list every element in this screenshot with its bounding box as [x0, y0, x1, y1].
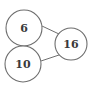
whole-label: 16	[63, 38, 79, 51]
number-bond-diagram: 6 10 16	[0, 0, 100, 88]
connector-line-bottom	[41, 55, 59, 61]
part-node-top: 6	[6, 10, 42, 46]
part-label-top: 6	[20, 22, 28, 35]
part-node-bottom: 10	[5, 46, 41, 82]
connector-line-top	[42, 26, 59, 34]
whole-node: 16	[55, 28, 87, 60]
part-label-bottom: 10	[15, 58, 31, 71]
